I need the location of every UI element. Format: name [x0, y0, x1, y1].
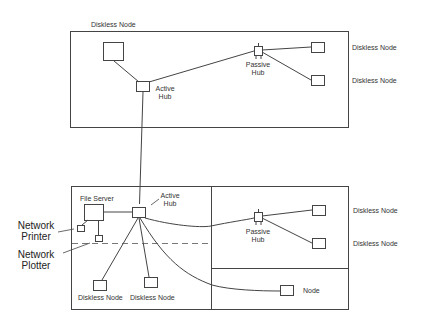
bottom-diskless-node-2-box — [145, 278, 158, 288]
network-plotter-label: Network Plotter — [14, 249, 58, 271]
top-right-node-1-label: Diskless Node — [352, 44, 397, 52]
network-plotter-box — [96, 236, 103, 242]
top-right-node-2-label: Diskless Node — [352, 77, 397, 85]
bottom-diskless-node-2-label: Diskless Node — [130, 294, 175, 302]
top-title-label: Diskless Node — [91, 21, 136, 29]
bottom-right-node-1-box — [313, 206, 326, 216]
bottom-active-hub-label: Active Hub — [158, 192, 182, 208]
backbone-link — [140, 92, 144, 204]
bottom-right-node-2-box — [313, 239, 326, 249]
top-active-hub-box — [137, 82, 150, 92]
top-passive-hub-label: Passive Hub — [244, 61, 272, 77]
top-right-node-2-box — [312, 76, 325, 86]
network-printer-label: Network Printer — [14, 220, 58, 242]
top-right-node-1-box — [312, 43, 325, 53]
bottom-diskless-node-1-label: Diskless Node — [78, 294, 123, 302]
bottom-passive-hub-label: Passive Hub — [244, 228, 272, 244]
bottom-diskless-node-1-box — [94, 281, 107, 291]
bottom-right-node-2-label: Diskless Node — [353, 240, 398, 248]
top-passive-hub-icon — [255, 43, 263, 59]
top-diskless-node-box — [104, 43, 124, 61]
file-server-label: File Server — [80, 195, 114, 203]
far-node-box — [281, 286, 294, 296]
far-node-label: Node — [303, 287, 320, 295]
bottom-right-node-1-label: Diskless Node — [353, 207, 398, 215]
network-printer-box — [78, 226, 85, 232]
bottom-active-hub-box — [133, 208, 146, 218]
bottom-passive-hub-icon — [255, 209, 263, 225]
top-active-hub-label: Active Hub — [153, 85, 177, 101]
file-server-box — [85, 205, 104, 221]
